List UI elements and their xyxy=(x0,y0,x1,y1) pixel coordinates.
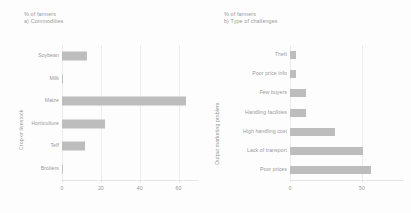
x-tickmark xyxy=(290,180,291,182)
panel-commodities: % of farmers a) Commodities Crop or live… xyxy=(0,0,205,213)
panel-a-y-axis-title: Crop or livestock xyxy=(18,110,24,150)
panel-b-y-axis-title: Output marketing problem xyxy=(214,103,220,165)
x-tick-label: 50 xyxy=(359,185,365,191)
category-label: Broilers xyxy=(41,166,59,171)
x-tick-label: 40 xyxy=(137,185,143,191)
panel-challenges: % of farmers b) Type of challenges Outpu… xyxy=(205,0,411,213)
category-label: Maize xyxy=(45,99,59,104)
category-label: High handling cost xyxy=(243,129,287,134)
bar xyxy=(62,164,63,173)
x-tick-label: 20 xyxy=(98,185,104,191)
panel-b-plot-area: Theft Poor price info Few buyers Handlin… xyxy=(290,45,404,180)
category-label: Horticulture xyxy=(32,121,59,126)
panel-a-plot-area: Soybean Milk Maize Horticulture Teff Bro… xyxy=(62,45,198,180)
x-tickmark xyxy=(362,180,363,182)
category-label: Lack of transport xyxy=(247,148,287,153)
x-tick-label: 0 xyxy=(61,185,64,191)
panel-b-x-axis xyxy=(290,180,404,181)
x-tick-label: 0 xyxy=(289,185,292,191)
panel-a-header: % of farmers a) Commodities xyxy=(24,11,63,25)
category-label: Theft xyxy=(275,52,287,57)
category-label: Soybean xyxy=(38,54,59,59)
bar-row: Poor prices xyxy=(290,45,404,180)
panel-b-title: b) Type of challenges xyxy=(224,18,278,25)
bar-row: Broilers xyxy=(62,45,198,180)
x-tickmark xyxy=(62,180,63,182)
category-label: Handling facilities xyxy=(245,110,287,115)
panel-a-title: a) Commodities xyxy=(24,18,63,25)
category-label: Teff xyxy=(50,144,59,149)
panel-b-header: % of farmers b) Type of challenges xyxy=(224,11,278,25)
category-label: Few buyers xyxy=(259,91,287,96)
panel-a-unit-label: % of farmers xyxy=(24,11,63,18)
category-label: Milk xyxy=(49,76,59,81)
category-label: Poor prices xyxy=(260,168,287,173)
x-tick-label: 60 xyxy=(176,185,182,191)
x-tickmark xyxy=(101,180,102,182)
x-tickmark xyxy=(140,180,141,182)
category-label: Poor price info xyxy=(252,71,287,76)
panel-b-unit-label: % of farmers xyxy=(224,11,278,18)
x-tickmark xyxy=(179,180,180,182)
figure-root: % of farmers a) Commodities Crop or live… xyxy=(0,0,411,213)
bar xyxy=(290,166,371,174)
